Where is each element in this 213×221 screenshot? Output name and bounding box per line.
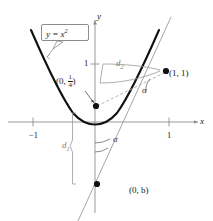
point-markers (93, 68, 169, 187)
d2-subscript: 2 (121, 63, 124, 70)
d2-measure (100, 64, 160, 83)
x-tick-label-1: 1 (167, 131, 171, 140)
focus-point-marker (93, 103, 99, 109)
focus-point-label: (0, 14) (56, 74, 76, 90)
point-0b-marker (94, 181, 100, 187)
callout-pointer (47, 41, 63, 59)
equation-text: y = x (46, 29, 65, 39)
d1-subscript: 1 (67, 145, 70, 152)
angle-alpha-lower-label: α (113, 135, 118, 144)
x-axis-label: x (200, 117, 204, 126)
fraction-denominator: 4 (68, 82, 73, 89)
y-axis-label: y (97, 12, 101, 21)
point-0b-label: (0, b) (129, 186, 149, 195)
x-tick-label-neg1: −1 (29, 131, 38, 140)
focus-label-fraction: 14 (68, 74, 73, 90)
parabola-figure: y = x2 x y −1 1 1 (0, 14) (1, 1) (0, b) … (0, 0, 213, 221)
focus-label-suffix: ) (73, 76, 76, 86)
equation-exponent: 2 (65, 27, 68, 34)
dashed-focal-segment (97, 72, 166, 106)
d2-label: d2 (116, 59, 124, 70)
angle-alpha-upper-label: α (142, 86, 147, 95)
figure-canvas (0, 0, 213, 221)
axis-group (8, 20, 198, 213)
y-tick-label-1: 1 (84, 59, 88, 68)
d1-label: d1 (62, 141, 70, 152)
point-11-label: (1, 1) (169, 69, 189, 78)
equation-callout-label: y = x2 (46, 28, 68, 39)
focus-label-arrow (85, 91, 94, 103)
focus-label-prefix: (0, (56, 76, 68, 86)
d1-measure (70, 113, 76, 184)
slant-line (78, 17, 171, 221)
